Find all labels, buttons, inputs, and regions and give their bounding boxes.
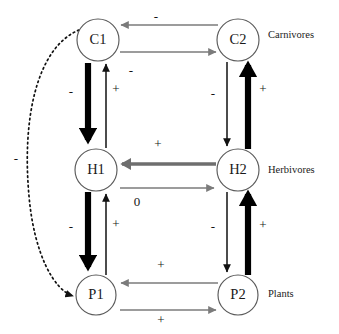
node-c2-label: C2 [230, 31, 247, 47]
sign-h1-h2: 0 [134, 194, 141, 209]
node-h1[interactable]: H1 [75, 149, 117, 191]
sign-p2-p1-top: + [157, 257, 164, 272]
sign-h1-c1: + [112, 81, 119, 96]
food-web-canvas: C1 C2 H1 H2 P1 P2 Carnivores Herbivores … [0, 0, 339, 334]
sign-h1-p1: - [69, 219, 73, 234]
sign-p1-p2-bottom: + [157, 312, 164, 327]
sign-c2-c1-top: - [154, 9, 158, 24]
node-c2[interactable]: C2 [217, 19, 259, 61]
food-web-diagram: C1 C2 H1 H2 P1 P2 Carnivores Herbivores … [0, 0, 339, 334]
node-p2-label: P2 [230, 286, 245, 302]
tier-label-carnivores: Carnivores [268, 29, 314, 40]
node-p2[interactable]: P2 [218, 275, 258, 315]
node-p1-label: P1 [88, 286, 103, 302]
sign-c1-c2-bottom: - [129, 63, 133, 78]
sign-h2-h1: + [154, 136, 161, 151]
sign-h2-c2: + [259, 81, 266, 96]
tier-label-herbivores: Herbivores [268, 164, 315, 175]
node-c1-label: C1 [90, 31, 107, 47]
sign-c1-h1: - [69, 84, 73, 99]
sign-p2-h2: + [259, 217, 266, 232]
node-h1-label: H1 [87, 161, 105, 177]
node-c1[interactable]: C1 [77, 19, 119, 61]
edge-c1-to-p1-dotted [27, 30, 79, 296]
sign-c1-p1-dotted: - [14, 151, 18, 166]
sign-p1-h1: + [112, 216, 119, 231]
node-p1[interactable]: P1 [76, 275, 116, 315]
node-h2-label: H2 [229, 161, 247, 177]
sign-c2-h2: - [211, 86, 215, 101]
sign-h2-p2: - [211, 219, 215, 234]
node-h2[interactable]: H2 [217, 149, 259, 191]
tier-label-plants: Plants [268, 288, 294, 299]
